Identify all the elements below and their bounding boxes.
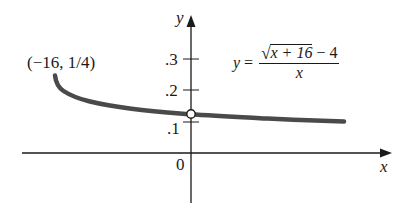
formula-denominator: x [296, 64, 303, 82]
y-axis-label: y [176, 9, 184, 26]
y-tick-label-2: .2 [165, 82, 178, 99]
y-axis-arrow-icon [187, 15, 196, 27]
function-formula: y = √ x + 16 − 4 x [233, 44, 339, 82]
function-plot [0, 0, 412, 215]
y-tick-label-3: .3 [165, 51, 178, 68]
formula-numerator: √ x + 16 − 4 [259, 44, 339, 64]
origin-label: 0 [176, 156, 185, 173]
x-axis-label: x [380, 158, 388, 175]
y-tick-label-1: .1 [167, 120, 180, 137]
function-curve [55, 76, 344, 122]
open-circle-hole [187, 110, 195, 118]
formula-equals: = [244, 54, 253, 72]
formula-fraction: √ x + 16 − 4 x [259, 44, 339, 82]
formula-num-tail: − 4 [312, 44, 337, 62]
formula-lhs: y [233, 54, 240, 72]
formula-radicand: x + 16 [270, 44, 312, 62]
endpoint-label: (−16, 1/4) [27, 54, 95, 71]
